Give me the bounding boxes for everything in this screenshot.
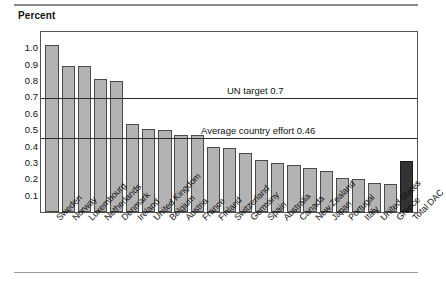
reference-label-un-target: UN target 0.7 (227, 85, 284, 98)
y-tick-label: 0.5 (25, 125, 38, 135)
bar-slot (44, 32, 60, 212)
y-tick-label: 0.1 (25, 191, 38, 201)
bar-slot (383, 32, 399, 212)
bar-slot (286, 32, 302, 212)
bar-sweden[interactable] (45, 45, 58, 212)
bar-slot (302, 32, 318, 212)
y-tick-label: 0.3 (25, 158, 38, 168)
y-tick-label: 0.8 (25, 76, 38, 86)
bar-slot (141, 32, 157, 212)
bar-slot (76, 32, 92, 212)
y-tick-label: 0.9 (25, 60, 38, 70)
y-tick-label: 0.7 (25, 93, 38, 103)
y-tick-label: 0.2 (25, 175, 38, 185)
bottom-divider-rule (14, 272, 418, 273)
y-tick-label: 0.6 (25, 109, 38, 119)
bar-slot (221, 32, 237, 212)
bar-slot (60, 32, 76, 212)
bar-slot (157, 32, 173, 212)
y-axis-title: Percent (18, 10, 55, 21)
bar-slot (270, 32, 286, 212)
bar-norway[interactable] (62, 66, 75, 212)
bar-luxembourg[interactable] (78, 66, 91, 212)
bar-slot (205, 32, 221, 212)
x-axis-labels: SwedenNorwayLuxembourgNetherlandsDenmark… (40, 214, 418, 274)
reference-label-average-effort: Average country effort 0.46 (201, 125, 315, 138)
y-axis: 0.10.20.30.40.50.60.70.80.91.0 (0, 31, 40, 213)
bar-slot (92, 32, 108, 212)
reference-line-average-effort (41, 138, 417, 139)
bar-slot (238, 32, 254, 212)
reference-line-un-target (41, 98, 417, 99)
top-divider-rule (14, 4, 418, 6)
y-tick-label: 1.0 (25, 44, 38, 54)
bar-series (41, 32, 417, 212)
bar-slot (367, 32, 383, 212)
y-tick-label: 0.4 (25, 142, 38, 152)
bar-slot (318, 32, 334, 212)
plot-area: UN target 0.7Average country effort 0.46 (40, 31, 418, 213)
